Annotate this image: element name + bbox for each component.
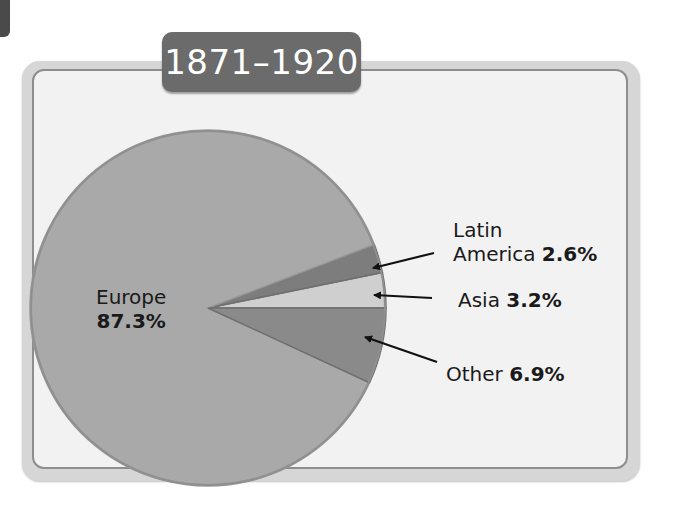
label-europe-name: Europe	[96, 285, 166, 309]
label-europe-value: 87.3%	[96, 309, 165, 333]
label-asia-value: 3.2%	[506, 288, 561, 312]
label-latin-america: Latin America 2.6%	[453, 218, 597, 266]
label-other-value: 6.9%	[509, 362, 564, 386]
label-latin-america-name-2: America	[453, 242, 536, 266]
label-other-name: Other	[446, 362, 503, 386]
arrow-latin-america	[373, 253, 434, 268]
label-europe: Europe 87.3%	[96, 285, 166, 333]
label-latin-america-name-1: Latin	[453, 218, 597, 242]
label-latin-america-value: 2.6%	[542, 242, 597, 266]
label-asia-name: Asia	[458, 288, 500, 312]
label-other: Other 6.9%	[446, 362, 565, 386]
chart-title: 1871–1920	[162, 32, 361, 92]
label-asia: Asia 3.2%	[458, 288, 562, 312]
